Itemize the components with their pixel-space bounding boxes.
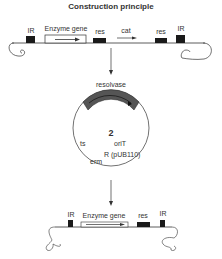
res-label-1: res <box>95 28 105 35</box>
resolvase-label: resolvase <box>96 81 126 88</box>
bottom-right-loop <box>162 227 177 251</box>
orit-label: oriT <box>114 140 127 147</box>
bottom-res-box <box>137 222 150 227</box>
ir-label-right: IR <box>178 25 185 32</box>
top-left-loop <box>9 43 25 56</box>
plasmid-number: 2 <box>108 128 113 138</box>
construction-diagram: Construction principle IR Enzyme gene re… <box>0 0 222 259</box>
res-box-1 <box>93 38 106 43</box>
cat-arrow-head <box>132 37 137 40</box>
bottom-ir-box-right <box>160 220 165 227</box>
bottom-ir-label-left: IR <box>68 211 75 218</box>
step-arrow-2-head <box>109 201 113 206</box>
bottom-construct: IR Enzyme gene res IR <box>46 210 177 251</box>
cat-label: cat <box>121 27 130 34</box>
ir-box-left <box>26 36 35 43</box>
step-arrow-1-head <box>109 70 113 75</box>
plasmid: resolvase 2 ts oriT R (pUB110) erm <box>73 81 149 166</box>
res-label-2: res <box>156 28 166 35</box>
diagram-title: Construction principle <box>68 2 154 11</box>
ts-label: ts <box>80 140 86 147</box>
enzyme-gene-box <box>45 35 86 43</box>
erm-label: erm <box>90 158 102 165</box>
top-right-loop <box>181 43 211 59</box>
bottom-enzyme-gene-label: Enzyme gene <box>83 212 126 220</box>
ir-label-left: IR <box>28 27 35 34</box>
r-pub110-label: R (pUB110) <box>104 151 140 159</box>
bottom-res-label: res <box>138 212 148 219</box>
enzyme-gene-label: Enzyme gene <box>45 25 88 33</box>
bottom-ir-label-right: IR <box>160 210 167 217</box>
bottom-ir-box-left <box>68 220 73 227</box>
res-box-2 <box>155 38 167 43</box>
ir-box-right <box>176 35 185 43</box>
top-construct: IR Enzyme gene res cat res IR <box>9 25 211 59</box>
bottom-left-loop <box>46 227 60 251</box>
